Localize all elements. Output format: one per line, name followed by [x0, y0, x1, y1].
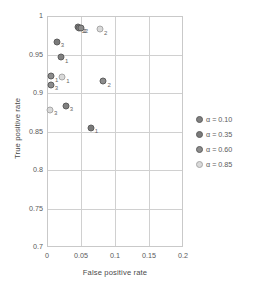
- legend-marker-icon: [196, 146, 203, 153]
- data-point-label: 3: [61, 42, 64, 48]
- x-axis-tick-label: 0.1: [102, 252, 128, 259]
- data-point: [97, 26, 104, 33]
- legend-item: α = 0.10: [196, 112, 256, 127]
- data-point: [100, 78, 107, 85]
- x-axis-tick-label: 0.2: [170, 252, 196, 259]
- plot-area: [47, 16, 183, 247]
- data-point: [87, 124, 94, 131]
- legend-marker-icon: [196, 116, 203, 123]
- legend-marker-icon: [196, 161, 203, 168]
- legend-item-label: α = 0.35: [206, 131, 232, 138]
- data-point-label: 3: [54, 110, 57, 116]
- data-point-label: 2: [85, 28, 88, 34]
- gridline-horizontal: [48, 132, 182, 133]
- data-point: [77, 24, 84, 31]
- y-axis-tick-label: 0.75: [15, 205, 43, 212]
- y-axis-tick-label: 0.95: [15, 51, 43, 58]
- legend-item: α = 0.85: [196, 157, 256, 172]
- data-point: [48, 73, 55, 80]
- x-axis-tick-label: 0: [34, 252, 60, 259]
- legend-item: α = 0.60: [196, 142, 256, 157]
- x-axis-tick-label: 0.05: [68, 252, 94, 259]
- data-point-label: 1: [66, 78, 69, 84]
- data-point-label: 3: [70, 106, 73, 112]
- x-axis-title: False positive rate: [47, 268, 183, 277]
- data-point: [57, 54, 64, 61]
- gridline-horizontal: [48, 170, 182, 171]
- legend-item: α = 0.35: [196, 127, 256, 142]
- data-point: [53, 38, 60, 45]
- data-point-label: 1: [95, 128, 98, 134]
- y-axis-tick-label: 0.7: [15, 243, 43, 250]
- scatter-chart: 0.70.750.80.850.90.95100.050.10.150.2 21…: [0, 0, 256, 286]
- legend-marker-icon: [196, 131, 203, 138]
- legend-item-label: α = 0.10: [206, 116, 232, 123]
- data-point: [47, 81, 54, 88]
- legend-item-label: α = 0.85: [206, 161, 232, 168]
- data-point-label: 1: [65, 58, 68, 64]
- legend-item-label: α = 0.60: [206, 146, 232, 153]
- gridline-horizontal: [48, 209, 182, 210]
- x-axis-tick-label: 0.15: [136, 252, 162, 259]
- legend: α = 0.10α = 0.35α = 0.60α = 0.85: [196, 112, 256, 172]
- gridline-horizontal: [48, 93, 182, 94]
- data-point-label: 3: [55, 85, 58, 91]
- data-point-label: 2: [107, 82, 110, 88]
- gridline-horizontal: [48, 55, 182, 56]
- y-axis-tick-label: 1: [15, 12, 43, 19]
- data-point: [62, 102, 69, 109]
- data-point: [59, 74, 66, 81]
- data-point-label: 2: [104, 30, 107, 36]
- data-point: [47, 106, 54, 113]
- y-axis-title: True positive rate: [13, 59, 22, 199]
